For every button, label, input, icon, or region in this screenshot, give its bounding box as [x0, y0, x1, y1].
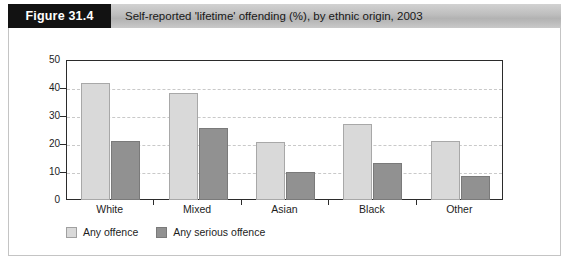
- legend-label: Any serious offence: [173, 226, 265, 238]
- y-axis-label: 20: [20, 138, 60, 149]
- legend-swatch: [156, 227, 167, 238]
- bar-group: [242, 61, 329, 200]
- x-axis-tick: [153, 200, 154, 205]
- bar: [169, 93, 198, 200]
- figure-number-label: Figure 31.4: [25, 9, 93, 23]
- legend-item: Any serious offence: [156, 226, 265, 238]
- y-axis-label: 0: [20, 194, 60, 205]
- x-axis-label: Asian: [240, 203, 330, 215]
- figure-number-block: Figure 31.4: [8, 4, 111, 28]
- bar: [461, 176, 490, 200]
- figure-title: Self-reported 'lifetime' offending (%), …: [111, 4, 561, 28]
- figure-container: Figure 31.4 Self-reported 'lifetime' off…: [0, 0, 569, 267]
- chart-legend: Any offenceAny serious offence: [66, 226, 265, 238]
- y-axis-label: 30: [20, 110, 60, 121]
- y-axis-tick: [60, 172, 66, 173]
- y-axis-tick: [60, 116, 66, 117]
- x-axis-label: White: [65, 203, 155, 215]
- legend-label: Any offence: [83, 226, 138, 238]
- y-axis-tick: [60, 144, 66, 145]
- bar-group: [329, 61, 416, 200]
- bar: [81, 83, 110, 200]
- y-axis-tick: [60, 88, 66, 89]
- figure-header: Figure 31.4 Self-reported 'lifetime' off…: [8, 4, 561, 28]
- bar: [373, 163, 402, 200]
- bar: [431, 141, 460, 200]
- bar: [199, 128, 228, 200]
- x-axis-tick: [416, 200, 417, 205]
- x-axis-label: Black: [327, 203, 417, 215]
- y-axis-label: 50: [20, 54, 60, 65]
- legend-item: Any offence: [66, 226, 138, 238]
- y-axis-label: 40: [20, 82, 60, 93]
- bar: [343, 124, 372, 200]
- y-axis-label: 10: [20, 166, 60, 177]
- bar: [111, 141, 140, 200]
- x-axis-tick: [241, 200, 242, 205]
- x-axis-label: Other: [414, 203, 504, 215]
- legend-swatch: [66, 227, 77, 238]
- x-axis-tick: [328, 200, 329, 205]
- bar-group: [417, 61, 504, 200]
- bar-group: [67, 61, 154, 200]
- bar: [286, 172, 315, 200]
- x-axis-label: Mixed: [152, 203, 242, 215]
- bar-series-container: [67, 61, 502, 200]
- bar-group: [154, 61, 241, 200]
- bar: [256, 142, 285, 200]
